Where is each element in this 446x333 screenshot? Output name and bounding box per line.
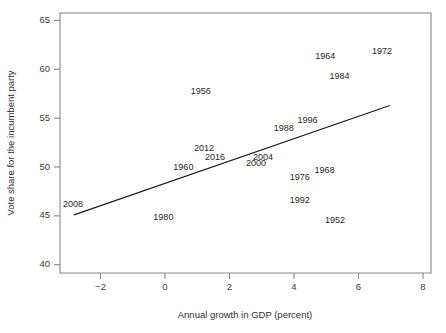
y-tick-label: 40 [39,258,50,269]
y-tick-label: 60 [39,63,50,74]
x-axis-ticks: −202468 [95,273,426,292]
x-tick-label: 2 [227,281,232,292]
chart-figure: 404550556065 −202468 1952195619601964196… [0,0,446,333]
x-tick-label: 0 [162,281,167,292]
data-point-label: 1984 [329,71,349,81]
data-point-label: 2004 [253,152,273,162]
x-tick-label: 8 [420,281,425,292]
y-axis-title: Vote share for the incumbent party [5,70,16,215]
data-point-label: 1964 [315,51,335,61]
data-point-label: 2016 [205,152,225,162]
y-tick-label: 45 [39,209,50,220]
x-tick-label: 6 [356,281,361,292]
y-axis-ticks: 404550556065 [39,14,60,269]
data-point-label: 1960 [173,162,193,172]
y-tick-label: 55 [39,112,50,123]
regression-line-group [74,105,390,214]
data-point-label: 1952 [325,215,345,225]
data-point-label: 1988 [274,123,294,133]
data-point-label: 1980 [153,212,173,222]
data-point-label: 1972 [372,46,392,56]
scatter-plot-svg: 404550556065 −202468 1952195619601964196… [0,0,446,333]
data-point-labels: 1952195619601964196819721976198019841988… [63,46,392,225]
data-point-label: 1996 [298,115,318,125]
data-point-label: 1976 [290,172,310,182]
data-point-label: 2008 [63,199,83,209]
data-point-label: 1956 [191,86,211,96]
regression-fit-line [74,105,390,214]
x-axis-title: Annual growth in GDP (percent) [178,309,312,320]
x-tick-label: −2 [95,281,106,292]
y-tick-label: 65 [39,14,50,25]
data-point-label: 1992 [290,195,310,205]
y-tick-label: 50 [39,161,50,172]
data-point-label: 1968 [315,165,335,175]
x-tick-label: 4 [291,281,296,292]
